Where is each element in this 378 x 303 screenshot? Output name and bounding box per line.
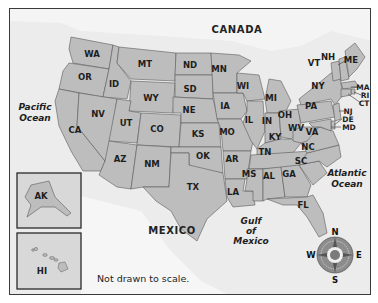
label-ca: CA bbox=[69, 125, 82, 135]
label-sd: SD bbox=[183, 84, 196, 94]
label-pacific-2: Ocean bbox=[19, 113, 51, 123]
label-nh: NH bbox=[321, 52, 335, 62]
label-mn: MN bbox=[211, 64, 227, 74]
label-vt: VT bbox=[308, 58, 321, 68]
label-va: VA bbox=[306, 127, 319, 137]
label-ks: KS bbox=[192, 129, 205, 139]
alaska-inset[interactable]: AK bbox=[17, 173, 81, 228]
state-ri[interactable] bbox=[351, 89, 355, 94]
compass-s: S bbox=[332, 275, 338, 285]
label-ny: NY bbox=[311, 81, 325, 91]
label-fl: FL bbox=[297, 200, 309, 210]
label-mo: MO bbox=[219, 127, 235, 137]
label-nc: NC bbox=[301, 142, 314, 152]
label-hi: HI bbox=[37, 266, 47, 276]
label-sc: SC bbox=[295, 156, 307, 166]
label-tn: TN bbox=[259, 147, 272, 157]
label-pa: PA bbox=[305, 101, 317, 111]
label-ga: GA bbox=[282, 169, 296, 179]
label-canada: CANADA bbox=[212, 24, 263, 35]
label-nm: NM bbox=[144, 159, 160, 169]
label-gulf-3: Mexico bbox=[233, 236, 268, 246]
label-ct: CT bbox=[359, 99, 371, 108]
label-wv: WV bbox=[288, 123, 304, 133]
label-ok: OK bbox=[196, 151, 210, 161]
label-co: CO bbox=[150, 124, 163, 134]
label-id: ID bbox=[109, 79, 119, 89]
hawaii-inset[interactable]: HI bbox=[17, 233, 81, 289]
label-in: IN bbox=[262, 116, 272, 126]
label-nv: NV bbox=[91, 109, 105, 119]
compass-w: W bbox=[306, 250, 316, 260]
compass-n: N bbox=[331, 227, 338, 237]
us-map: WA OR CA ID NV MT WY UT CO AZ NM ND SD N… bbox=[10, 9, 371, 295]
label-ms: MS bbox=[242, 169, 257, 179]
label-mexico: MEXICO bbox=[148, 225, 196, 236]
label-ne: NE bbox=[183, 105, 196, 115]
label-wy: WY bbox=[143, 93, 159, 103]
label-wi: WI bbox=[237, 81, 250, 91]
label-or: OR bbox=[78, 72, 92, 82]
label-mt: MT bbox=[138, 59, 152, 69]
label-ia: IA bbox=[220, 101, 230, 111]
state-nj[interactable] bbox=[333, 103, 341, 121]
label-la: LA bbox=[227, 187, 239, 197]
label-tx: TX bbox=[187, 182, 200, 192]
label-me: ME bbox=[344, 55, 358, 65]
state-ct[interactable] bbox=[341, 89, 351, 97]
label-gulf-1: Gulf bbox=[241, 216, 263, 226]
state-ia[interactable] bbox=[213, 93, 247, 119]
label-gulf-2: of bbox=[246, 226, 257, 236]
label-atlantic-1: Atlantic bbox=[326, 168, 367, 178]
label-il: IL bbox=[245, 115, 254, 125]
label-az: AZ bbox=[114, 154, 127, 164]
label-atlantic-2: Ocean bbox=[331, 179, 363, 189]
label-ak: AK bbox=[34, 191, 48, 201]
label-al: AL bbox=[263, 171, 276, 181]
compass-e: E bbox=[356, 250, 362, 260]
label-ky: KY bbox=[269, 132, 283, 142]
label-mi: MI bbox=[265, 93, 277, 103]
scale-note: Not drawn to scale. bbox=[97, 273, 189, 284]
label-oh: OH bbox=[278, 110, 292, 120]
label-wa: WA bbox=[84, 49, 100, 59]
compass-rose-icon: N S E W bbox=[306, 227, 362, 285]
map-frame: WA OR CA ID NV MT WY UT CO AZ NM ND SD N… bbox=[9, 8, 371, 295]
label-ut: UT bbox=[120, 118, 133, 128]
label-md: MD bbox=[342, 123, 356, 132]
label-nd: ND bbox=[183, 60, 197, 70]
label-ar: AR bbox=[225, 154, 239, 164]
label-pacific-1: Pacific bbox=[19, 102, 53, 112]
canada-land bbox=[10, 9, 371, 51]
